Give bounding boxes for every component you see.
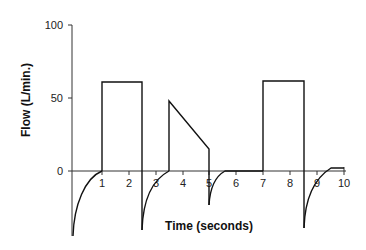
decelerating-breath-2: [169, 101, 209, 205]
x-tick-label: 10: [338, 177, 350, 189]
y-tick-label-100: 100: [45, 19, 63, 31]
x-tick-label: 2: [126, 177, 132, 189]
x-tick-label: 6: [233, 177, 239, 189]
square-breath-1: [102, 82, 142, 230]
x-tick-label: 8: [287, 177, 293, 189]
x-tick-label: 7: [260, 177, 266, 189]
y-tick-label-0: 0: [57, 165, 63, 177]
x-tick-label: 1: [99, 177, 105, 189]
waveform: [73, 81, 344, 236]
square-breath-3: [263, 81, 304, 228]
x-axis-title: Time (seconds): [165, 219, 253, 233]
y-tick-label-50: 50: [51, 92, 63, 104]
flow-time-chart: 100 50 0 1 2 3 4 5 6 7 8 9 10 Time (seco…: [0, 0, 366, 250]
y-axis-title: Flow (L/min.): [19, 63, 33, 137]
expiratory-curve-1: [73, 171, 102, 236]
x-tick-label: 4: [180, 177, 186, 189]
